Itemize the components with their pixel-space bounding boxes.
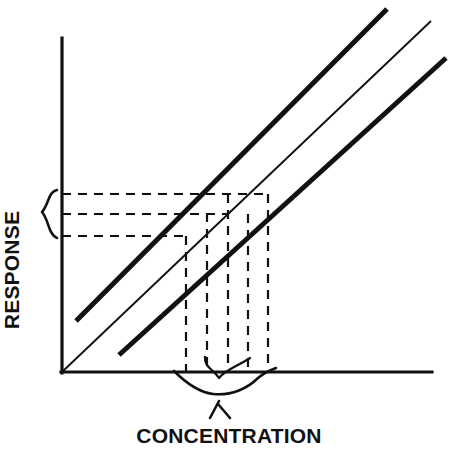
y-axis-title-label: RESPONSE (0, 200, 24, 340)
lower-calibration-line (119, 58, 446, 355)
y-axis-title: RESPONSE (0, 200, 24, 340)
response-uncertainty-brace (42, 190, 57, 238)
x-axis-title: CONCENTRATION (0, 424, 458, 448)
axes-group (61, 38, 432, 373)
central-calibration-line (62, 21, 431, 372)
calibration-diagram-canvas (0, 0, 458, 454)
calibration-diagram: CONCENTRATION RESPONSE (0, 0, 458, 454)
response-brace-path (42, 190, 57, 238)
upper-calibration-line (76, 9, 387, 321)
uncertainty-glyph (210, 401, 230, 418)
calibration-lines-group (62, 9, 446, 372)
uncertainty-glyph-path (210, 401, 230, 418)
